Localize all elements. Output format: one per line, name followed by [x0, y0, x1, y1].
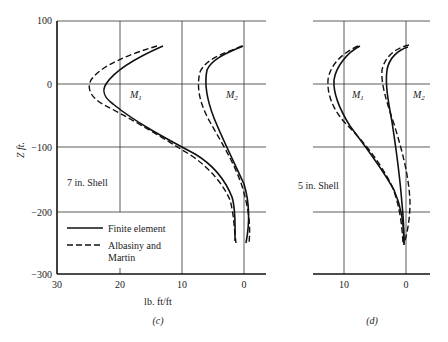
- x-tick-label: 20: [115, 279, 125, 290]
- panel-caption-d: (d): [366, 315, 378, 327]
- curve-label-m1: M1: [129, 89, 142, 102]
- legend-label-finite-element: Finite element: [108, 223, 166, 234]
- x-axis-label: lb. ft/ft: [144, 296, 172, 307]
- curve-m1-albasiny-martin: [89, 46, 236, 243]
- curve-m2-finite-element: [386, 47, 408, 245]
- y-tick-label: 100: [37, 15, 52, 26]
- panel-caption-c: (c): [152, 315, 164, 327]
- curve-label-m2: M2: [225, 89, 238, 102]
- panel-d: 10 0 (d) 5 in. Shell M1 M2: [298, 21, 430, 327]
- shell-thickness-label: 5 in. Shell: [298, 180, 339, 191]
- y-tick-label: −100: [31, 142, 52, 153]
- y-tick-label: 0: [47, 79, 52, 90]
- x-tick-label: 10: [339, 279, 349, 290]
- curve-m1-albasiny-martin: [328, 46, 403, 243]
- y-tick-label: −200: [31, 207, 52, 218]
- y-axis-label: Z ft.: [15, 142, 26, 158]
- x-tick-label: 0: [242, 279, 247, 290]
- figure: 100 0 −100 −200 −300 30 20 10 0 Z ft. lb…: [0, 0, 448, 342]
- panel-c: 100 0 −100 −200 −300 30 20 10 0 Z ft. lb…: [15, 15, 266, 327]
- x-tick-label: 30: [52, 279, 62, 290]
- curve-label-m1: M1: [351, 89, 364, 102]
- curve-label-m2: M2: [412, 89, 425, 102]
- curve-m2-finite-element: [206, 46, 249, 243]
- legend-label-martin: Martin: [108, 252, 135, 263]
- legend: Finite element Albasiny and Martin: [67, 223, 166, 263]
- y-tick-label: −300: [31, 269, 52, 280]
- x-tick-label: 0: [404, 279, 409, 290]
- curve-m1-finite-element: [334, 46, 404, 243]
- shell-thickness-label: 7 in. Shell: [67, 177, 108, 188]
- x-tick-label: 10: [177, 279, 187, 290]
- legend-label-albasiny: Albasiny and: [108, 240, 161, 251]
